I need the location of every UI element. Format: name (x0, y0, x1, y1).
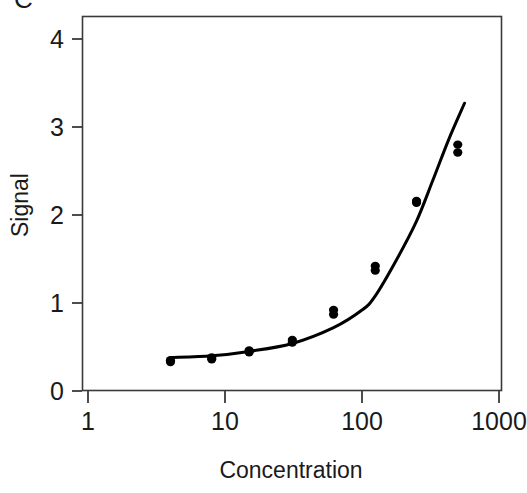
data-point (207, 355, 216, 363)
data-point (329, 310, 338, 318)
data-point (245, 348, 254, 356)
x-axis-title: Concentration (219, 457, 362, 483)
x-tick-label: 10 (211, 407, 239, 435)
y-axis-tick-labels: 01234 (50, 25, 64, 405)
data-point (453, 140, 462, 148)
y-tick-label: 4 (50, 25, 64, 53)
y-tick-label: 1 (50, 289, 64, 317)
y-axis-title: Signal (7, 173, 33, 237)
x-tick-label: 1000 (471, 407, 527, 435)
data-point (412, 198, 421, 206)
x-tick-label: 1 (81, 407, 95, 435)
data-point (371, 266, 380, 274)
y-tick-label: 0 (50, 377, 64, 405)
clipped-caption-glyph: C (14, 0, 33, 12)
x-axis-ticks (88, 391, 499, 403)
y-axis-ticks (72, 39, 82, 391)
calibration-curve-chart: 01234 1101001000 Concentration Signal (0, 0, 527, 493)
data-point (166, 358, 175, 366)
x-tick-label: 100 (341, 407, 383, 435)
x-axis-tick-labels: 1101001000 (81, 407, 527, 435)
data-point (453, 148, 462, 156)
plot-area-frame (83, 17, 502, 391)
figure-container: C 01234 1101001000 Concentration Signal (0, 0, 527, 493)
y-tick-label: 3 (50, 113, 64, 141)
data-point-markers (166, 140, 462, 366)
data-point (288, 338, 297, 346)
fitted-curve-line (170, 103, 464, 357)
y-tick-label: 2 (50, 201, 64, 229)
